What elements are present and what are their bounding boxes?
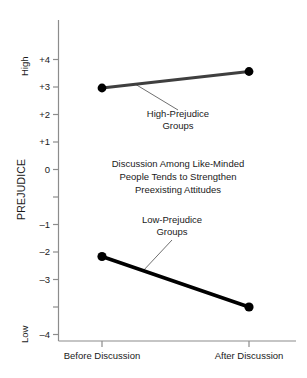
y-tick-label-plus3: +3 (28, 82, 50, 92)
y-tick-label-plus4: +4 (28, 55, 50, 65)
low-prejudice-series-label-line1: Low-Prejudice (118, 214, 226, 226)
y-tick-label-minus2: –2 (28, 247, 50, 257)
y-axis-low-label: Low (20, 326, 30, 343)
high-prejudice-series-label-line1: High-Prejudice (124, 108, 232, 120)
high-series-leader-line (135, 84, 178, 110)
high-prejudice-point-before (98, 84, 107, 93)
y-tick-label-plus1: +1 (28, 137, 50, 147)
x-category-before-discussion: Before Discussion (48, 351, 156, 361)
x-axis-ticks (102, 341, 249, 347)
x-category-after-discussion: After Discussion (199, 351, 299, 361)
low-prejudice-series-label-line2: Groups (118, 226, 226, 238)
high-prejudice-series-line (102, 72, 249, 89)
center-annotation-line3: Preexisting Attitudes (66, 183, 290, 196)
y-axis-title: PREJUDICE (16, 159, 27, 220)
low-prejudice-point-before (97, 252, 106, 261)
low-prejudice-point-after (244, 302, 253, 311)
high-prejudice-series-label-line2: Groups (124, 120, 232, 132)
low-prejudice-series-label: Low-Prejudice Groups (118, 214, 226, 238)
center-annotation-line2: People Tends to Strengthen (66, 170, 290, 183)
y-axis-high-label: High (20, 56, 30, 76)
low-series-leader-line (142, 240, 172, 272)
y-axis-ticks (53, 60, 59, 335)
high-prejudice-series-label: High-Prejudice Groups (124, 108, 232, 132)
y-tick-label-minus4: –4 (28, 330, 50, 340)
low-prejudice-series-line (102, 257, 249, 308)
y-tick-label-plus2: +2 (28, 110, 50, 120)
center-annotation-line1: Discussion Among Like-Minded (66, 157, 290, 170)
y-tick-label-minus1: –1 (28, 220, 50, 230)
y-tick-label-minus3: –3 (28, 275, 50, 285)
y-tick-label-zero: 0 (28, 165, 50, 175)
high-prejudice-point-after (245, 67, 254, 76)
center-annotation: Discussion Among Like-Minded People Tend… (66, 157, 290, 196)
prejudice-line-chart: +4 +3 +2 +1 0 –1 –2 –3 –4 High Low PREJU… (0, 0, 307, 378)
